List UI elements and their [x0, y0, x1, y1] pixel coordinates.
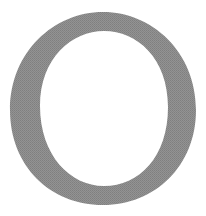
letter-o-glyph: O: [0, 0, 206, 216]
letter-o-shape: [0, 0, 206, 216]
